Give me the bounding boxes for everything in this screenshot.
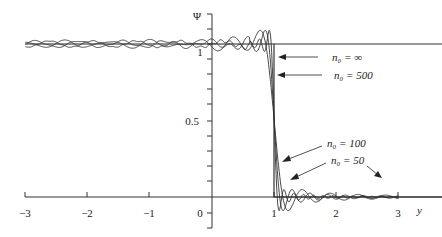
- annotation-n0-50: n₀ = 50: [331, 154, 365, 166]
- annotation-n0-500: n₀ = 500: [334, 69, 373, 81]
- arrow-n0-50: [294, 163, 326, 178]
- arrow-n0-100: [286, 146, 322, 160]
- y-tick-label: 0: [197, 207, 203, 219]
- x-tick-label: 1: [271, 207, 277, 219]
- arrowhead-icon: [278, 54, 286, 60]
- arrowhead-icon: [277, 72, 285, 78]
- arrowhead-icon: [374, 171, 382, 178]
- x-tick-label: 3: [395, 207, 401, 219]
- x-tick-label: 2: [333, 207, 339, 219]
- annotation-n0-100: n₀ = 100: [327, 137, 366, 149]
- y-tick-label: 0.5: [185, 115, 199, 127]
- x-tick-label: −1: [143, 207, 155, 219]
- annotation-n0-inf: n₀ = ∞: [332, 51, 362, 63]
- y-axis-label: Ψ: [193, 10, 202, 22]
- chart: −3 −2 −1 1 2 3 y Ψ 1 0.5 0 n₀ = ∞ n₀ = 5…: [0, 0, 442, 237]
- arrowhead-icon: [290, 173, 299, 180]
- x-tick-label: −3: [19, 207, 31, 219]
- x-tick-label: −2: [81, 207, 93, 219]
- x-axis-label: y: [416, 204, 422, 216]
- y-tick-label: 1: [197, 46, 203, 58]
- arrowhead-icon: [282, 155, 291, 162]
